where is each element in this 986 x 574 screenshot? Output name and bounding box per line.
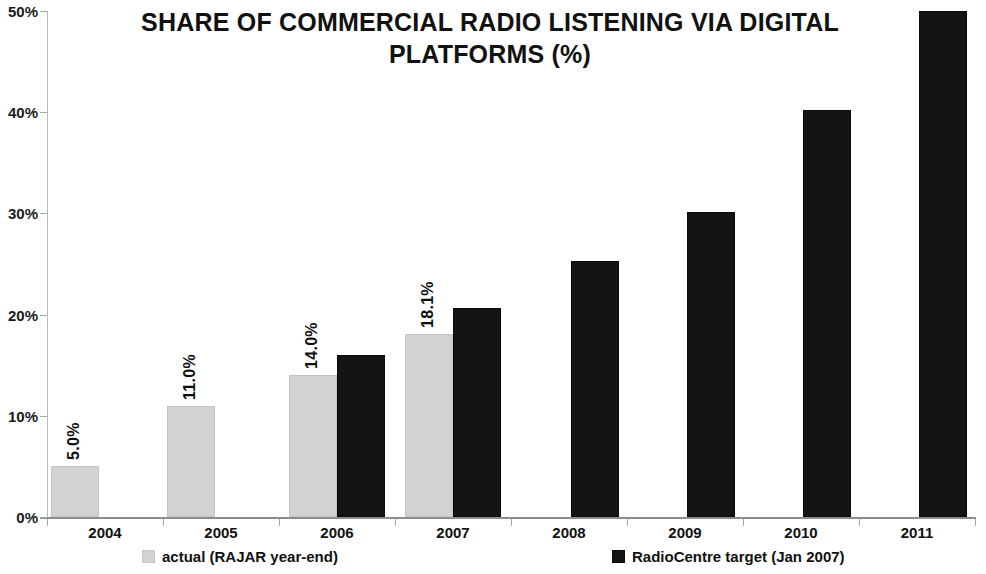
y-axis-label: 40% bbox=[0, 104, 38, 121]
bar-value-label-2006: 14.0% bbox=[303, 322, 321, 369]
legend-label-target: RadioCentre target (Jan 2007) bbox=[632, 548, 845, 565]
bar-target-2011 bbox=[919, 11, 967, 517]
legend-swatch-actual-icon bbox=[142, 550, 155, 563]
bar-target-2006 bbox=[337, 355, 385, 517]
y-axis-tick-labels: 50%40%30%20%10%0% bbox=[0, 0, 38, 574]
y-axis-tick-mark bbox=[40, 416, 47, 417]
x-axis-label: 2006 bbox=[279, 524, 395, 541]
x-axis-label: 2009 bbox=[627, 524, 743, 541]
bar-actual-2005 bbox=[167, 406, 215, 517]
plot-area: 5.0%11.0%14.0%18.1% bbox=[47, 11, 975, 517]
legend-swatch-target-icon bbox=[612, 550, 625, 563]
chart-legend: actual (RAJAR year-end) RadioCentre targ… bbox=[0, 548, 986, 574]
bar-chart: SHARE OF COMMERCIAL RADIO LISTENING VIA … bbox=[0, 0, 986, 574]
bar-actual-2004 bbox=[51, 466, 99, 517]
y-axis-label: 0% bbox=[0, 509, 38, 526]
x-axis-line bbox=[40, 517, 976, 519]
y-axis-tick-mark bbox=[40, 315, 47, 316]
y-axis-tick-mark bbox=[40, 112, 47, 113]
x-axis-label: 2007 bbox=[395, 524, 511, 541]
bar-value-label-2005: 11.0% bbox=[181, 354, 199, 400]
x-axis-label: 2010 bbox=[743, 524, 859, 541]
legend-item-target: RadioCentre target (Jan 2007) bbox=[612, 548, 845, 565]
legend-item-actual: actual (RAJAR year-end) bbox=[142, 548, 338, 565]
y-axis-label: 50% bbox=[0, 3, 38, 20]
y-axis-label: 30% bbox=[0, 205, 38, 222]
bar-target-2007 bbox=[453, 308, 501, 517]
bar-value-label-2004: 5.0% bbox=[65, 423, 83, 461]
x-axis-label: 2004 bbox=[47, 524, 163, 541]
bar-target-2009 bbox=[687, 212, 735, 517]
y-axis-label: 10% bbox=[0, 407, 38, 424]
bar-actual-2006 bbox=[289, 375, 337, 517]
bar-target-2008 bbox=[571, 261, 619, 517]
bar-value-label-2007: 18.1% bbox=[419, 281, 437, 328]
y-axis-label: 20% bbox=[0, 306, 38, 323]
x-axis-label: 2005 bbox=[163, 524, 279, 541]
bar-actual-2007 bbox=[405, 334, 453, 517]
x-axis-tick-mark bbox=[975, 519, 976, 526]
legend-label-actual: actual (RAJAR year-end) bbox=[162, 548, 338, 565]
x-axis-label: 2011 bbox=[859, 524, 975, 541]
y-axis-tick-mark bbox=[40, 517, 47, 518]
x-axis-label: 2008 bbox=[511, 524, 627, 541]
bar-target-2010 bbox=[803, 110, 851, 517]
y-axis-tick-mark bbox=[40, 213, 47, 214]
y-axis-tick-mark bbox=[40, 11, 47, 12]
